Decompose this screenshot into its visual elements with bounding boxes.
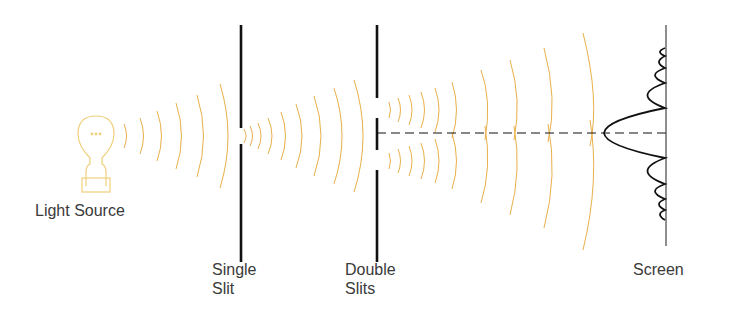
incident-waves: [124, 84, 228, 188]
single-slit-label: Single Slit: [212, 260, 256, 298]
lightbulb-icon: [78, 116, 114, 192]
light-source-label: Light Source: [35, 201, 125, 220]
diffracted-waves-double-lower: [389, 120, 594, 250]
double-slits-label: Double Slits: [345, 260, 396, 298]
diffracted-waves-double-upper: [389, 33, 594, 146]
interference-pattern: [604, 48, 665, 220]
single-slit-label-line1: Single: [212, 260, 256, 279]
diffracted-waves-single: [244, 80, 363, 192]
single-slit-label-line2: Slit: [212, 279, 256, 298]
double-slits-label-line1: Double: [345, 260, 396, 279]
double-slits-label-line2: Slits: [345, 279, 396, 298]
screen-label: Screen: [633, 260, 684, 279]
